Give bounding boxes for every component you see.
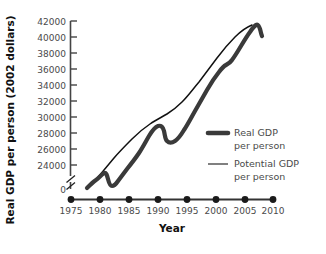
legend-label-potential-gdp-line2: per person	[234, 171, 285, 182]
y-tick-label: 30000	[37, 113, 66, 123]
legend-label-real-gdp-line2: per person	[234, 140, 285, 151]
x-axis-marker	[126, 196, 133, 203]
x-tick-label: 1980	[89, 206, 112, 216]
y-tick-label: 32000	[37, 97, 66, 107]
legend-label-real-gdp-line1: Real GDP	[234, 127, 278, 138]
y-tick-label: 42000	[37, 17, 66, 27]
x-axis-title: Year	[158, 222, 186, 234]
x-tick-label: 1995	[176, 206, 199, 216]
y-axis-title: Real GDP per person (2002 dollars)	[4, 15, 16, 224]
y-zero-tick-label: 0	[60, 185, 66, 195]
x-axis-marker	[213, 196, 220, 203]
chart-figure: Real GDP per person (2002 dollars) 42000…	[0, 0, 326, 254]
y-tick-label: 34000	[37, 81, 66, 91]
x-tick-label: 2010	[262, 206, 285, 216]
x-axis-marker	[97, 196, 104, 203]
x-axis-marker	[155, 196, 162, 203]
y-tick-label: 36000	[37, 65, 66, 75]
x-tick-label: 2005	[234, 206, 257, 216]
legend-label-potential-gdp-line1: Potential GDP	[234, 158, 299, 169]
gdp-line-chart: Real GDP per person (2002 dollars) 42000…	[0, 0, 326, 254]
x-axis-marker	[68, 196, 75, 203]
x-tick-label: 1990	[147, 206, 170, 216]
x-axis-marker	[242, 196, 249, 203]
x-tick-label: 1975	[60, 206, 83, 216]
y-tick-label: 40000	[37, 33, 66, 43]
y-tick-label: 28000	[37, 129, 66, 139]
x-axis-marker	[270, 196, 277, 203]
y-tick-label: 38000	[37, 49, 66, 59]
y-tick-label: 24000	[37, 161, 66, 171]
x-axis-marker	[184, 196, 191, 203]
x-tick-label: 2000	[205, 206, 228, 216]
y-tick-label: 26000	[37, 145, 66, 155]
x-tick-label: 1985	[118, 206, 141, 216]
